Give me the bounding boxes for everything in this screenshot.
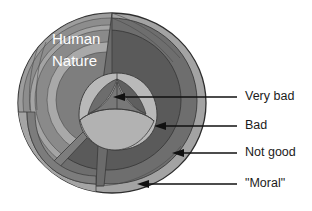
callout-label-moral: "Moral" bbox=[245, 176, 285, 190]
figure-title-line2: Nature bbox=[52, 52, 97, 69]
cutaway-sphere-figure: Human Nature Very bad Bad Not good "Mora… bbox=[0, 0, 312, 211]
diagram-root: Human Nature Very bad Bad Not good "Mora… bbox=[0, 0, 312, 211]
figure-title-line1: Human bbox=[52, 30, 100, 47]
sphere-group bbox=[18, 13, 206, 193]
callout-label-very-bad: Very bad bbox=[245, 89, 294, 103]
callout-label-not-good: Not good bbox=[245, 145, 296, 159]
core-assembly bbox=[79, 73, 157, 150]
callout-label-bad: Bad bbox=[245, 118, 267, 132]
